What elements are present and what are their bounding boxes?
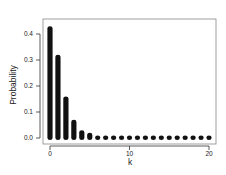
y-axis-label: Probability <box>8 64 18 104</box>
y-tick-label: 0.4 <box>24 30 33 37</box>
bar-k-13 <box>151 135 156 140</box>
bar-k-14 <box>159 135 164 140</box>
bar-k-11 <box>135 135 140 140</box>
bar-k-8 <box>111 135 116 140</box>
x-tick-label: 20 <box>205 150 213 157</box>
y-axis: 0.00.10.20.30.4 <box>24 30 40 141</box>
bar-k-18 <box>191 135 196 140</box>
bar-k-10 <box>127 135 132 140</box>
bar-k-20 <box>206 135 211 140</box>
bar-k-1 <box>55 55 60 140</box>
bar-k-3 <box>71 120 76 140</box>
bar-k-5 <box>87 133 92 140</box>
y-tick-label: 0.1 <box>24 108 33 115</box>
x-tick-label: 10 <box>126 150 134 157</box>
x-axis: 01020 <box>48 146 213 157</box>
bar-k-9 <box>119 135 124 140</box>
bars <box>47 26 211 140</box>
y-tick-label: 0.3 <box>24 56 33 63</box>
bar-k-0 <box>47 26 52 140</box>
bar-k-2 <box>63 96 68 140</box>
x-axis-label: k <box>128 157 133 167</box>
bar-k-19 <box>198 135 203 140</box>
bar-k-15 <box>167 135 172 140</box>
plot-frame <box>43 19 216 144</box>
bar-k-16 <box>175 135 180 140</box>
bar-chart: 0.00.10.20.30.4 01020 Probability k <box>0 0 226 175</box>
bar-k-17 <box>183 135 188 140</box>
bar-k-7 <box>103 135 108 140</box>
x-tick-label: 0 <box>48 150 52 157</box>
y-tick-label: 0.0 <box>24 134 33 141</box>
bar-k-4 <box>79 130 84 140</box>
y-tick-label: 0.2 <box>24 82 33 89</box>
bar-k-12 <box>143 135 148 140</box>
bar-k-6 <box>95 135 100 140</box>
